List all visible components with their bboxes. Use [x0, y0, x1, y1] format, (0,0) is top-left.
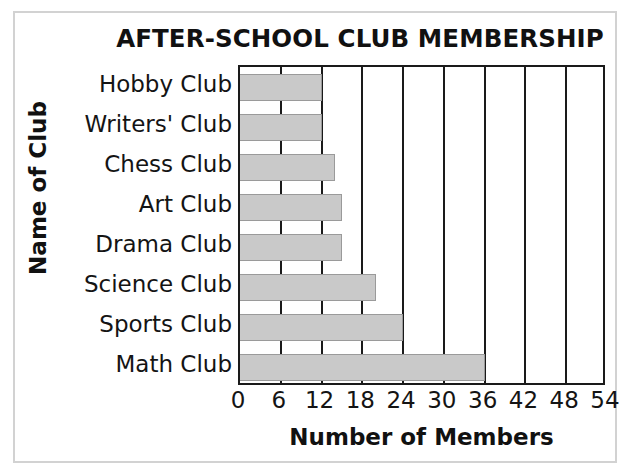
y-axis-label: Drama Club	[95, 233, 232, 256]
y-axis-label: Math Club	[116, 353, 232, 376]
x-axis-tick-12: 12	[305, 389, 334, 412]
x-axis-tick-labels: 061218243036424854	[238, 389, 605, 421]
chart-page: AFTER-SCHOOL CLUB MEMBERSHIP Name of Clu…	[0, 0, 630, 476]
y-axis-label: Science Club	[84, 273, 232, 296]
bar	[240, 154, 335, 181]
x-axis-tick-54: 54	[590, 389, 619, 412]
chart-title: AFTER-SCHOOL CLUB MEMBERSHIP	[110, 24, 610, 53]
x-axis-tick-42: 42	[509, 389, 538, 412]
y-axis-label: Sports Club	[99, 313, 232, 336]
bar	[240, 354, 485, 381]
bar	[240, 74, 322, 101]
y-axis-category-labels: Hobby ClubWriters' ClubChess ClubArt Clu…	[40, 65, 232, 385]
x-axis-tick-24: 24	[386, 389, 415, 412]
bar	[240, 114, 322, 141]
x-axis-title: Number of Members	[238, 424, 605, 450]
x-axis-tick-36: 36	[468, 389, 497, 412]
y-axis-label: Hobby Club	[99, 73, 232, 96]
bar	[240, 274, 376, 301]
bar	[240, 194, 342, 221]
y-axis-label: Art Club	[139, 193, 232, 216]
x-axis-tick-18: 18	[346, 389, 375, 412]
y-axis-label: Chess Club	[104, 153, 232, 176]
y-axis-label: Writers' Club	[85, 113, 232, 136]
x-axis-tick-48: 48	[550, 389, 579, 412]
x-axis-tick-6: 6	[271, 389, 286, 412]
bars-layer	[240, 67, 603, 383]
x-axis-tick-0: 0	[231, 389, 246, 412]
bar	[240, 234, 342, 261]
plot-area	[238, 65, 605, 385]
bar	[240, 314, 403, 341]
x-axis-tick-30: 30	[427, 389, 456, 412]
